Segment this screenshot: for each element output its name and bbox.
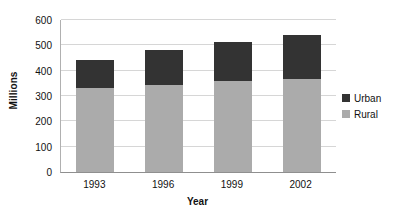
y-axis-title-label: Millions	[8, 71, 19, 109]
y-tick-label: 200	[35, 116, 52, 127]
y-tick-label: 300	[35, 91, 52, 102]
bar-group[interactable]	[214, 42, 252, 172]
legend-swatch-icon	[342, 94, 350, 102]
y-tick-label: 500	[35, 40, 52, 51]
bar-segment-rural[interactable]	[214, 81, 252, 172]
x-tick-label: 1996	[152, 178, 174, 191]
bar-segment-rural[interactable]	[145, 85, 183, 172]
stacked-bar-chart: Millions 0100200300400500600 19931996199…	[0, 0, 398, 222]
x-axis-tick-labels: 1993199619992002	[60, 178, 335, 194]
legend-item-urban[interactable]: Urban	[342, 90, 398, 106]
bar-segment-rural[interactable]	[76, 88, 114, 172]
bar-segment-urban[interactable]	[214, 42, 252, 81]
bar-group[interactable]	[145, 50, 183, 172]
bar-segment-urban[interactable]	[283, 35, 321, 79]
bar-group[interactable]	[76, 60, 114, 172]
y-axis-tick-labels: 0100200300400500600	[26, 14, 56, 178]
legend-swatch-icon	[342, 110, 350, 118]
legend-label: Urban	[354, 93, 381, 104]
y-tick-label: 0	[46, 167, 52, 178]
legend-item-rural[interactable]: Rural	[342, 106, 398, 122]
x-tick-label: 2002	[290, 178, 312, 191]
bar-segment-rural[interactable]	[283, 79, 321, 172]
x-tick-label: 1999	[221, 178, 243, 191]
bar-segment-urban[interactable]	[145, 50, 183, 84]
chart-legend: UrbanRural	[342, 90, 398, 122]
plot-area	[60, 20, 336, 173]
y-axis-title: Millions	[0, 0, 26, 180]
bar-group[interactable]	[283, 35, 321, 172]
y-tick-label: 400	[35, 65, 52, 76]
bar-segment-urban[interactable]	[76, 60, 114, 89]
bars-layer	[61, 20, 336, 172]
y-tick-label: 100	[35, 141, 52, 152]
x-tick-label: 1993	[83, 178, 105, 191]
y-tick-label: 600	[35, 15, 52, 26]
legend-label: Rural	[354, 109, 378, 120]
x-axis-title: Year	[60, 196, 335, 207]
